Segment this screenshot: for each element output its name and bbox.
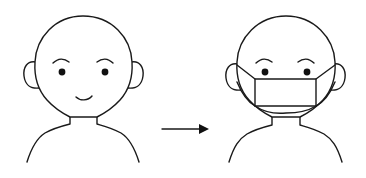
left-shoulder (229, 115, 272, 162)
right-eye-icon (304, 69, 311, 76)
right-eye-icon (102, 69, 109, 76)
right-shoulder (300, 115, 342, 162)
mask-diagram: Person without a face mask, arrow, same … (0, 0, 366, 178)
left-eye-icon (59, 69, 66, 76)
left-shoulder (27, 115, 70, 162)
left-eye-icon (262, 69, 269, 76)
face-mask-icon (255, 79, 316, 106)
figure-without-mask (24, 16, 143, 162)
arrow-right-icon (162, 124, 209, 134)
figure-with-mask (226, 16, 345, 162)
right-shoulder (97, 115, 139, 162)
diagram-canvas (0, 0, 366, 178)
head (35, 16, 132, 117)
